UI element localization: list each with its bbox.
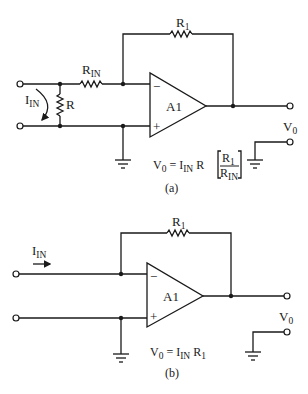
inverting-input-sign: − [153, 79, 160, 94]
figure-caption: (a) [165, 181, 178, 195]
amplifier-label: A1 [163, 289, 179, 304]
svg-text:RIN: RIN [220, 166, 238, 182]
output-terminal [284, 293, 290, 299]
junction-dot [121, 82, 125, 86]
shunt-resistor [57, 84, 63, 126]
input-resistor-label: RIN [82, 62, 101, 79]
junction-dot [229, 294, 233, 298]
noninverting-input-sign: + [150, 309, 157, 324]
transfer-equation: V0=IINR R1 RIN [153, 151, 241, 182]
output-ground-terminal [284, 329, 290, 335]
junction-dot [231, 104, 235, 108]
feedback-path [121, 233, 231, 296]
circuit-diagram: R1 RIN R IIN A1 − + V0 V0=IINR R1 RIN (a… [0, 0, 308, 394]
input-terminal-top [13, 271, 19, 277]
ground-symbol-input [115, 126, 131, 168]
input-current-label: IIN [25, 92, 40, 109]
output-terminal [287, 103, 293, 109]
junction-dot [58, 124, 62, 128]
ground-symbol-output [245, 332, 284, 360]
junction-dot [121, 124, 125, 128]
figure-a: R1 RIN R IIN A1 − + V0 V0=IINR R1 RIN (a… [17, 15, 297, 195]
output-ground-terminal [287, 139, 293, 145]
input-current-label: IIN [32, 243, 47, 260]
transfer-equation: V0=IINR1 [150, 345, 206, 361]
feedback-resistor-label: R1 [172, 214, 186, 231]
ground-symbol-input [113, 318, 129, 362]
input-terminal-top [17, 81, 23, 87]
output-voltage-label: V0 [283, 119, 297, 136]
ground-symbol-output [247, 142, 287, 168]
feedback-path [123, 34, 233, 106]
feedback-resistor [167, 230, 189, 236]
figure-caption: (b) [165, 366, 179, 380]
input-terminal-bottom [17, 123, 23, 129]
svg-text:V0=IINR: V0=IINR [153, 158, 204, 174]
svg-text:R1: R1 [222, 151, 235, 167]
noninverting-input-sign: + [153, 119, 160, 134]
input-resistor [80, 81, 102, 87]
junction-dot [119, 272, 123, 276]
amplifier-label: A1 [166, 99, 182, 114]
shunt-resistor-label: R [66, 97, 75, 112]
input-terminal-bottom [13, 315, 19, 321]
feedback-resistor-label: R1 [176, 15, 190, 32]
inverting-input-sign: − [150, 269, 157, 284]
junction-dot [58, 82, 62, 86]
figure-b: R1 IIN A1 − + V0 V0=IINR1 (b) [13, 214, 293, 380]
junction-dot [119, 316, 123, 320]
output-voltage-label: V0 [279, 309, 293, 326]
